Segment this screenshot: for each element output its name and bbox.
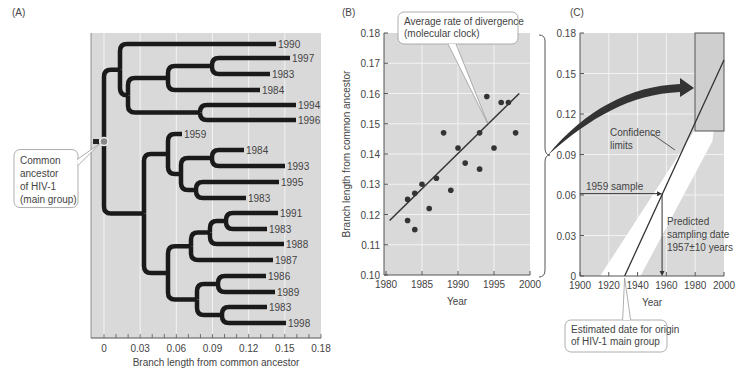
x-tick-label: 1995 bbox=[483, 279, 506, 290]
panel-c: (C)19001920194019601980200000.030.060.09… bbox=[548, 7, 736, 352]
x-tick-label: 1960 bbox=[655, 280, 678, 291]
data-point bbox=[441, 130, 447, 136]
leaf-label: 1986 bbox=[268, 271, 291, 282]
y-tick-label: 0.18 bbox=[361, 28, 381, 39]
panel-a-label: (A) bbox=[12, 7, 25, 18]
leaf-label: 1987 bbox=[275, 255, 298, 266]
x-tick-label: 2000 bbox=[713, 280, 736, 291]
molecular-clock-callout-text: (molecular clock) bbox=[404, 28, 480, 39]
data-point bbox=[434, 175, 440, 181]
leaf-label: 1984 bbox=[246, 145, 269, 156]
ancestor-node-icon bbox=[100, 138, 108, 146]
ancestor-callout-text: of HIV-1 bbox=[20, 181, 57, 192]
y-tick-label: 0.13 bbox=[361, 179, 381, 190]
x-tick-label: 1920 bbox=[598, 280, 621, 291]
y-tick-label: 0.18 bbox=[557, 28, 577, 39]
leaf-label: 1993 bbox=[287, 161, 310, 172]
data-point bbox=[426, 206, 432, 212]
x-tick-label: 0.15 bbox=[275, 343, 295, 354]
x-tick-label: 0.18 bbox=[311, 343, 331, 354]
x-tick-label: 1940 bbox=[626, 280, 649, 291]
confidence-label: limits bbox=[610, 140, 633, 151]
y-tick-label: 0.15 bbox=[361, 119, 381, 130]
leaf-label: 1990 bbox=[278, 39, 301, 50]
y-tick-label: 0.12 bbox=[557, 109, 577, 120]
x-tick-label: 0.03 bbox=[130, 343, 150, 354]
leaf-label: 1995 bbox=[281, 177, 304, 188]
x-tick-label: 0.09 bbox=[203, 343, 223, 354]
data-point bbox=[405, 218, 411, 224]
ancestor-marker-square bbox=[93, 139, 99, 144]
y-tick-label: 0.09 bbox=[557, 150, 577, 161]
x-axis-title: Branch length from common ancestor bbox=[133, 357, 300, 368]
leaf-label: 1998 bbox=[288, 318, 311, 329]
y-tick-label: 0.03 bbox=[557, 231, 577, 242]
leaf-label: 1991 bbox=[280, 208, 303, 219]
ancestor-callout-text: (main group) bbox=[20, 194, 77, 205]
data-point bbox=[462, 160, 468, 166]
leaf-label: 1984 bbox=[262, 85, 285, 96]
predicted-date-label: sampling date bbox=[667, 229, 730, 240]
leaf-label: 1994 bbox=[298, 100, 321, 111]
figure: (A)00.030.060.090.120.150.18Branch lengt… bbox=[0, 0, 736, 379]
y-tick-label: 0.14 bbox=[361, 149, 381, 160]
data-point bbox=[455, 145, 461, 151]
panel-b-label: (B) bbox=[342, 7, 355, 18]
leaf-label: 1959 bbox=[184, 129, 207, 140]
data-point bbox=[477, 166, 483, 172]
x-tick-label: 1985 bbox=[411, 279, 434, 290]
leaf-label: 1989 bbox=[277, 287, 300, 298]
x-axis-title: Year bbox=[642, 297, 663, 308]
data-point bbox=[513, 130, 519, 136]
molecular-clock-callout-text: Average rate of divergence bbox=[404, 16, 524, 27]
data-point bbox=[477, 130, 483, 136]
x-tick-label: 0.12 bbox=[239, 343, 259, 354]
leaf-label: 1997 bbox=[292, 53, 315, 64]
data-point bbox=[498, 100, 504, 106]
data-point bbox=[412, 227, 418, 233]
x-tick-label: 1980 bbox=[684, 280, 707, 291]
confidence-label: Confidence bbox=[610, 127, 661, 138]
origin-callout-text: Estimated date for origin bbox=[571, 324, 679, 335]
y-tick-label: 0.17 bbox=[361, 58, 381, 69]
panel-a: (A)00.030.060.090.120.150.18Branch lengt… bbox=[12, 7, 331, 368]
data-point bbox=[419, 181, 425, 187]
leaf-label: 1996 bbox=[298, 115, 321, 126]
x-tick-label: 0.06 bbox=[167, 343, 187, 354]
y-axis-title: Branch length from common ancestor bbox=[341, 70, 352, 237]
panel-b: (B)198019851990199520000.100.110.120.130… bbox=[341, 7, 550, 307]
zoom-region-box bbox=[695, 33, 724, 131]
y-tick-label: 0.11 bbox=[361, 240, 380, 251]
data-point bbox=[448, 188, 454, 194]
ancestor-callout-text: ancestor bbox=[20, 168, 59, 179]
ancestor-callout-text: Common bbox=[20, 155, 61, 166]
y-tick-label: 0.10 bbox=[361, 270, 381, 281]
y-tick-label: 0.06 bbox=[557, 190, 577, 201]
predicted-date-label: Predicted bbox=[667, 216, 709, 227]
x-axis-title: Year bbox=[447, 296, 468, 307]
x-tick-label: 0 bbox=[101, 343, 107, 354]
predicted-date-label: 1957±10 years bbox=[667, 242, 733, 253]
origin-callout-text: of HIV-1 main group bbox=[571, 336, 660, 347]
leaf-label: 1988 bbox=[286, 239, 309, 250]
y-tick-label: 0.16 bbox=[361, 89, 381, 100]
x-tick-label: 1990 bbox=[447, 279, 470, 290]
sample-label: 1959 sample bbox=[586, 181, 644, 192]
y-tick-label: 0.15 bbox=[557, 69, 577, 80]
panel-c-label: (C) bbox=[570, 7, 584, 18]
y-tick-label: 0.12 bbox=[361, 210, 381, 221]
brace-icon bbox=[539, 35, 550, 277]
data-point bbox=[484, 94, 490, 100]
y-tick-label: 0 bbox=[570, 271, 576, 282]
leaf-label: 1983 bbox=[269, 302, 292, 313]
data-point bbox=[506, 100, 512, 106]
data-point bbox=[491, 145, 497, 151]
x-tick-label: 2000 bbox=[519, 279, 542, 290]
leaf-label: 1983 bbox=[272, 69, 295, 80]
data-point bbox=[405, 197, 411, 203]
data-point bbox=[412, 191, 418, 197]
leaf-label: 1983 bbox=[269, 224, 292, 235]
leaf-label: 1983 bbox=[248, 193, 271, 204]
